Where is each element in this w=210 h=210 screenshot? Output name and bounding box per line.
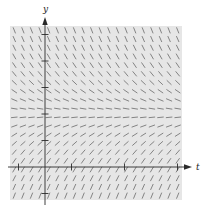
t-axis-label: t bbox=[196, 162, 200, 172]
y-axis-label: y bbox=[42, 4, 49, 14]
plot-panel bbox=[10, 26, 182, 200]
slope-field-plot: t y bbox=[0, 0, 210, 210]
t-axis-arrow-icon bbox=[184, 164, 192, 169]
y-axis-arrow-icon bbox=[42, 17, 47, 25]
